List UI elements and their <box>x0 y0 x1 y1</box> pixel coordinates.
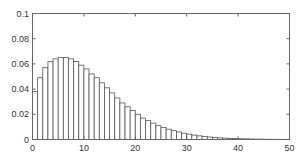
histogram-bar <box>135 114 140 139</box>
histogram-bar <box>33 92 38 140</box>
histogram-bar <box>94 78 99 140</box>
y-tick-label: 0 <box>24 135 29 145</box>
histogram-bar <box>161 128 166 140</box>
histogram-bar <box>120 103 125 140</box>
histogram-bar <box>197 136 202 140</box>
histogram-bar <box>79 65 84 139</box>
histogram-bar <box>156 126 161 140</box>
histogram-bar <box>89 74 94 140</box>
histogram-bar <box>99 83 104 140</box>
histogram-bar <box>125 107 130 140</box>
histogram-bar <box>68 59 73 140</box>
histogram-bar <box>48 61 53 139</box>
histogram-bar <box>166 129 171 139</box>
histogram-bar <box>43 68 48 140</box>
histogram-bar <box>182 133 187 139</box>
histogram-bar <box>104 88 109 140</box>
x-tick-label: 30 <box>182 143 192 153</box>
x-tick-label: 40 <box>233 143 243 153</box>
x-tick-label: 50 <box>284 143 294 153</box>
y-axis-tick-labels: 00.020.040.060.080.1 <box>11 9 29 145</box>
histogram-bar <box>171 131 176 140</box>
histogram-bar <box>151 123 156 139</box>
histogram-bar <box>146 121 151 140</box>
histogram-bar <box>53 59 58 140</box>
histogram-bar <box>63 58 68 140</box>
y-tick-label: 0.08 <box>11 34 29 44</box>
histogram-bar <box>115 98 120 140</box>
histogram-bar <box>140 118 145 139</box>
y-tick-label: 0.02 <box>11 109 29 119</box>
histogram-bar <box>130 111 135 140</box>
histogram-bar <box>187 134 192 139</box>
y-tick-label: 0.06 <box>11 59 29 69</box>
y-tick-label: 0.04 <box>11 84 29 94</box>
histogram-chart: 01020304050 00.020.040.060.080.1 <box>0 0 306 161</box>
histogram-bar <box>176 132 181 140</box>
x-tick-label: 0 <box>30 143 35 153</box>
bars-group <box>33 58 290 140</box>
x-tick-label: 20 <box>130 143 140 153</box>
histogram-bar <box>192 135 197 139</box>
histogram-bar <box>110 93 115 140</box>
x-tick-label: 10 <box>79 143 89 153</box>
y-tick-label: 0.1 <box>16 9 29 19</box>
histogram-bar <box>84 69 89 140</box>
histogram-bar <box>38 78 43 140</box>
histogram-bar <box>58 58 63 140</box>
histogram-bar <box>74 61 79 139</box>
x-axis-tick-labels: 01020304050 <box>30 143 295 153</box>
